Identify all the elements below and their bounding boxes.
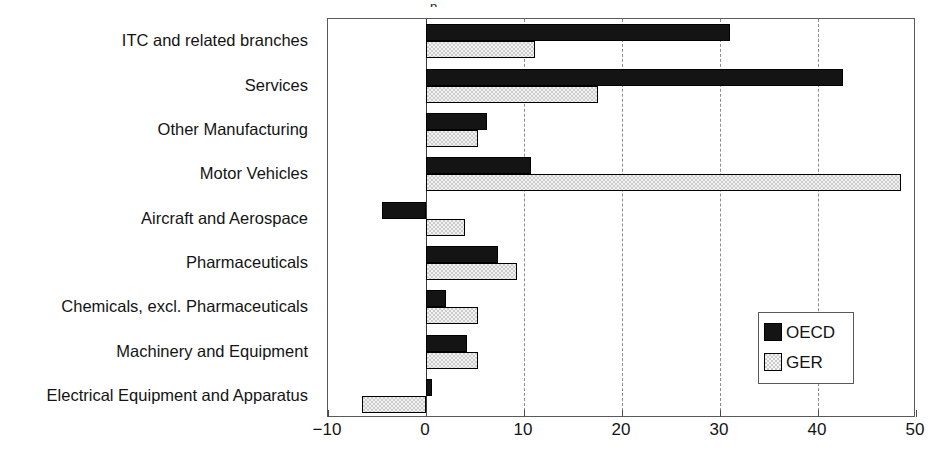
bar-ger <box>426 130 478 147</box>
bar-ger <box>426 41 535 58</box>
category-label: Other Manufacturing <box>158 121 308 138</box>
bar-oecd <box>426 24 730 41</box>
x-tick-mark <box>916 410 917 417</box>
x-tick-mark <box>622 410 623 417</box>
x-tick-label: 20 <box>612 420 631 440</box>
x-tick-label: −10 <box>313 420 342 440</box>
bar-ger <box>426 86 598 103</box>
x-axis: −1001020304050 <box>327 420 915 450</box>
bar-oecd <box>426 379 432 396</box>
x-tick-mark <box>524 410 525 417</box>
x-tick-label: 0 <box>420 420 429 440</box>
category-label: ITC and related branches <box>122 32 308 49</box>
bar-ger <box>426 174 901 191</box>
bar-oecd <box>426 290 446 307</box>
legend-label-ger: GER <box>786 354 823 371</box>
x-tick-label: 10 <box>514 420 533 440</box>
legend-item-oecd: OECD <box>764 317 848 347</box>
x-tick-mark <box>720 410 721 417</box>
bar-chart: p ITC and related branchesServicesOther … <box>0 0 930 461</box>
bar-oecd <box>426 335 467 352</box>
bar-ger <box>426 263 517 280</box>
x-tick-label: 30 <box>710 420 729 440</box>
x-tick-label: 50 <box>906 420 925 440</box>
legend-swatch-ger-icon <box>764 353 782 371</box>
bar-ger <box>426 219 465 236</box>
bar-ger <box>362 396 426 413</box>
category-label: Services <box>245 76 308 93</box>
x-tick-mark <box>426 410 427 417</box>
category-label: Pharmaceuticals <box>186 254 308 271</box>
bar-ger <box>426 307 478 324</box>
x-tick-mark <box>818 410 819 417</box>
category-label: Aircraft and Aerospace <box>141 209 308 226</box>
category-label: Motor Vehicles <box>200 165 308 182</box>
legend-item-ger: GER <box>764 347 848 377</box>
cropped-title-fragment: p <box>430 0 437 7</box>
bar-oecd <box>426 69 843 86</box>
legend-label-oecd: OECD <box>786 324 835 341</box>
category-label: Electrical Equipment and Apparatus <box>47 387 308 404</box>
x-tick-mark <box>328 410 329 417</box>
bar-oecd <box>426 246 498 263</box>
category-axis-labels: ITC and related branchesServicesOther Ma… <box>0 18 318 417</box>
bar-ger <box>426 352 478 369</box>
bar-oecd <box>426 113 487 130</box>
bar-oecd <box>426 157 531 174</box>
category-label: Machinery and Equipment <box>116 342 308 359</box>
legend: OECD GER <box>758 312 854 384</box>
x-tick-label: 40 <box>808 420 827 440</box>
category-label: Chemicals, excl. Pharmaceuticals <box>61 298 308 315</box>
legend-swatch-oecd-icon <box>764 323 782 341</box>
bar-oecd <box>382 202 426 219</box>
